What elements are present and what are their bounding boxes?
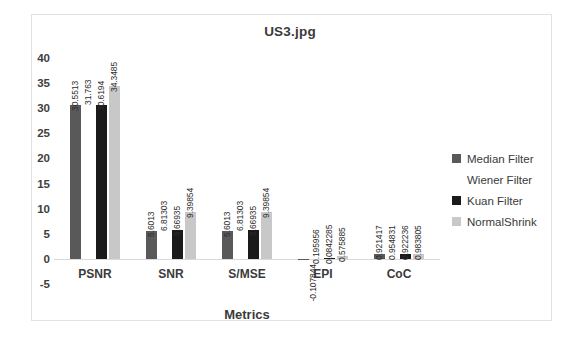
bar-value-label: 30.5513 (70, 81, 80, 111)
bar: 30.5513 (70, 58, 81, 284)
category-label-s-mse: S/MSE (209, 267, 285, 281)
y-axis-tick: 5 (44, 228, 50, 240)
bar-groups: 30.551331.76330.619434.34855.60136.81303… (57, 58, 437, 284)
category-label-psnr: PSNR (57, 267, 133, 281)
bar: 6.81303 (235, 58, 246, 284)
y-axis-tick: 10 (37, 203, 50, 215)
bar-rect (261, 212, 272, 259)
y-axis-tick: 0 (44, 253, 50, 265)
bar-value-label: 0.0842285 (324, 225, 334, 264)
bar-value-label: 0.575885 (337, 227, 347, 262)
bar: 5.6013 (146, 58, 157, 284)
bar-value-label: 0.195956 (311, 229, 321, 264)
bar-group: -0.1078440.1959560.08422850.575885 (285, 58, 361, 284)
legend-item[interactable]: Median Filter (452, 148, 572, 169)
bar-group: 30.551331.76330.619434.3485 (57, 58, 133, 284)
legend-swatch-icon (452, 217, 461, 226)
bar-rect (83, 99, 94, 259)
bar: 9.39854 (185, 58, 196, 284)
bar-value-label: 34.3485 (109, 62, 119, 92)
x-axis-title: Metrics (57, 307, 437, 322)
bar-group: 5.60136.813035.669359.39854 (133, 58, 209, 284)
bar: 5.66935 (172, 58, 183, 284)
bar: 5.66935 (248, 58, 259, 284)
bar: -0.107844 (298, 58, 309, 284)
bar-rect (185, 212, 196, 259)
bar-rect (109, 86, 120, 259)
legend-item[interactable]: Wiener Filter (452, 169, 572, 190)
bar: 5.6013 (222, 58, 233, 284)
bar: 30.6194 (96, 58, 107, 284)
bar-value-label: 9.39854 (185, 188, 195, 218)
bar-value-label: 0.983805 (413, 225, 423, 260)
legend-swatch-icon (452, 175, 461, 184)
legend-item[interactable]: Kuan Filter (452, 190, 572, 211)
bar: 31.763 (83, 58, 94, 284)
y-axis-tick: 15 (37, 178, 50, 190)
bar-value-label: 6.81303 (159, 201, 169, 231)
category-label-epi: EPI (285, 267, 361, 281)
legend-swatch-icon (452, 154, 461, 163)
bar: 0.575885 (337, 58, 348, 284)
bar-rect (298, 259, 309, 260)
bar-rect (96, 105, 107, 259)
y-axis-tick: -5 (40, 278, 50, 290)
bar-value-label: 6.81303 (235, 201, 245, 231)
bar: 34.3485 (109, 58, 120, 284)
y-axis-tick: 35 (37, 77, 50, 89)
legend-label: Kuan Filter (467, 195, 523, 207)
legend-label: Wiener Filter (467, 174, 532, 186)
y-axis-tick: 40 (37, 52, 50, 64)
category-label-snr: SNR (133, 267, 209, 281)
legend-label: Median Filter (467, 153, 533, 165)
bar: 0.954831 (387, 58, 398, 284)
chart-title: US3.jpg (0, 24, 580, 39)
category-label-coc: CoC (361, 267, 437, 281)
bar: 0.0842285 (324, 58, 335, 284)
legend-label: NormalShrink (467, 216, 537, 228)
bar-value-label: 0.922236 (400, 226, 410, 261)
bar-group: 5.60136.813035.669359.39854 (209, 58, 285, 284)
bar-value-label: 5.66935 (248, 206, 258, 236)
bar-group: 0.9214170.9548310.9222360.983805 (361, 58, 437, 284)
bar-value-label: 31.763 (83, 80, 93, 105)
bar-rect (70, 105, 81, 258)
bar-value-label: 9.39854 (261, 188, 271, 218)
y-axis-tick: 30 (37, 102, 50, 114)
bar-value-label: 0.954831 (387, 225, 397, 260)
y-axis-tick: 25 (37, 127, 50, 139)
bar: 9.39854 (261, 58, 272, 284)
legend-item[interactable]: NormalShrink (452, 211, 572, 232)
plot-area: 4035302520151050-5 30.551331.76330.61943… (57, 58, 437, 284)
bar: 0.922236 (400, 58, 411, 284)
chart-container: US3.jpg 4035302520151050-5 30.551331.763… (0, 0, 580, 354)
bar-value-label: 5.6013 (146, 211, 156, 236)
bar: 6.81303 (159, 58, 170, 284)
bar-value-label: 5.66935 (172, 206, 182, 236)
chart-title-text: US3.jpg (264, 24, 316, 39)
bar: 0.921417 (374, 58, 385, 284)
legend-swatch-icon (452, 196, 461, 205)
bar-value-label: 30.6194 (96, 81, 106, 111)
y-axis-tick: 20 (37, 152, 50, 164)
bar: 0.195956 (311, 58, 322, 284)
bar-value-label: 0.921417 (374, 226, 384, 261)
bar: 0.983805 (413, 58, 424, 284)
chart-legend: Median FilterWiener FilterKuan FilterNor… (452, 148, 572, 232)
bar-value-label: 5.6013 (222, 211, 232, 236)
